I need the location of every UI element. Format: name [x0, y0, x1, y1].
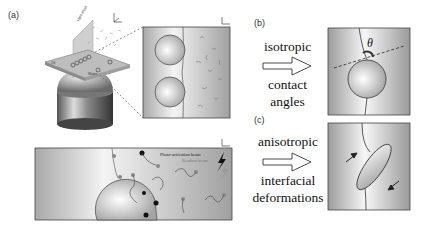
figure-canvas — [0, 0, 428, 231]
contact-caption: contact — [250, 76, 325, 93]
oil-label: Oil — [51, 61, 55, 65]
photo-activation-beam-label: Photo-activation beam — [160, 152, 201, 157]
interfacial-caption: interfacial — [248, 172, 328, 189]
arrow-icon-b — [263, 57, 311, 75]
anisotropic-caption: anisotropic — [248, 133, 328, 150]
panel-label-b: (b) — [254, 18, 265, 28]
arrow-icon-c — [263, 153, 311, 171]
hollow-arrows — [263, 57, 311, 171]
axes-icon-zoom — [222, 17, 230, 24]
water-label: Water — [88, 72, 97, 76]
deformation-panel — [328, 123, 410, 210]
panel-label-a: (a) — [8, 10, 19, 20]
axes-icon-bottom — [222, 139, 230, 146]
bottom-activation-panel — [35, 139, 232, 220]
zoomed-interface-panel — [143, 17, 230, 118]
panel-label-c: (c) — [254, 115, 265, 125]
axes-icon — [114, 13, 122, 22]
angles-caption: angles — [250, 93, 325, 110]
isotropic-caption: isotropic — [250, 38, 325, 55]
particle-lower — [155, 77, 185, 107]
deformations-caption: deformations — [248, 189, 328, 206]
readout-beam-label: Readout beam — [182, 158, 208, 163]
spherical-particle — [348, 60, 386, 98]
particle-upper — [155, 35, 185, 65]
theta-symbol: θ — [367, 36, 373, 51]
